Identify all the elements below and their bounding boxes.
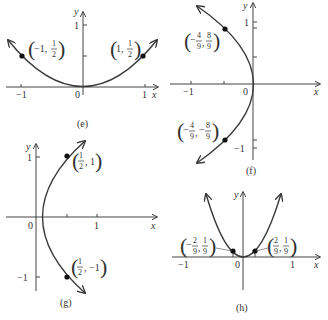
svg-text:0: 0 <box>243 86 248 97</box>
svg-text:−: − <box>190 34 196 45</box>
svg-text:9: 9 <box>207 42 211 51</box>
point <box>222 26 227 31</box>
svg-text:1: 1 <box>27 152 32 163</box>
svg-text:1: 1 <box>290 259 295 270</box>
svg-text:, 1: , 1 <box>85 156 95 167</box>
point-label-e2: ( 1, 1 2 ) <box>110 36 141 61</box>
svg-text:1: 1 <box>79 151 83 160</box>
svg-text:−1: −1 <box>17 272 28 283</box>
svg-text:1,: 1, <box>116 43 124 54</box>
point <box>19 53 24 58</box>
svg-text:2: 2 <box>52 50 56 59</box>
svg-text:−1,: −1, <box>34 43 47 54</box>
y-label: y <box>73 6 79 17</box>
caption-h: (h) <box>236 302 248 314</box>
point <box>64 274 69 279</box>
svg-text:−1: −1 <box>16 89 27 100</box>
point-label-g2: ( 1 2 , −1 ) <box>71 254 107 279</box>
svg-text:8: 8 <box>206 121 210 130</box>
svg-text:1: 1 <box>244 17 249 28</box>
svg-text:4: 4 <box>197 31 201 40</box>
panel-f: y x 0 −1 1 −1 ( − 4 9 , 8 9 ) ( − 4 9 , … <box>170 0 320 177</box>
svg-text:): ) <box>100 254 107 279</box>
svg-text:−: − <box>183 124 189 135</box>
svg-text:9: 9 <box>193 247 197 256</box>
svg-text:2: 2 <box>78 268 82 277</box>
figure: y x 0 −1 1 1 ( −1, 1 2 ) ( 1, 1 2 ) (e) <box>0 0 328 320</box>
svg-text:2: 2 <box>79 162 83 171</box>
svg-text:1: 1 <box>52 39 56 48</box>
caption-e: (e) <box>77 118 88 130</box>
point <box>222 137 227 142</box>
x-label: x <box>151 89 157 100</box>
svg-text:2: 2 <box>193 236 197 245</box>
svg-text:y: y <box>233 189 239 200</box>
origin-label: 0 <box>75 89 80 100</box>
caption-f: (f) <box>246 165 256 177</box>
point-label-g1: ( 1 2 , 1 ) <box>72 148 102 173</box>
point-label-f1: ( − 4 9 , 8 9 ) <box>184 28 220 53</box>
svg-text:,: , <box>198 242 201 253</box>
svg-text:): ) <box>134 36 141 61</box>
svg-text:): ) <box>95 148 102 173</box>
svg-text:, −1: , −1 <box>84 262 100 273</box>
svg-text:): ) <box>290 233 297 258</box>
svg-text:x: x <box>313 259 319 270</box>
point <box>64 153 69 158</box>
svg-text:−1: −1 <box>183 86 194 97</box>
svg-text:2: 2 <box>128 50 132 59</box>
point-label-e1: ( −1, 1 2 ) <box>28 36 65 61</box>
svg-text:1: 1 <box>128 39 132 48</box>
svg-text:x: x <box>313 86 319 97</box>
svg-text:9: 9 <box>206 132 210 141</box>
svg-text:,: , <box>202 37 205 48</box>
point-label-f2: ( − 4 9 , − 8 9 ) <box>177 118 219 143</box>
panel-g: y x 0 1 1 −1 ( 1 2 , 1 ) ( 1 2 , −1 ) (g… <box>6 141 157 309</box>
svg-text:−: − <box>186 239 192 250</box>
svg-text:): ) <box>213 28 220 53</box>
svg-text:9: 9 <box>274 247 278 256</box>
svg-text:1: 1 <box>203 236 207 245</box>
svg-text:4: 4 <box>190 121 194 130</box>
point-label-h1: ( − 2 9 , 1 9 ) <box>180 233 216 258</box>
svg-text:0: 0 <box>235 259 240 270</box>
svg-text:1: 1 <box>78 257 82 266</box>
svg-text:8: 8 <box>207 31 211 40</box>
svg-text:9: 9 <box>190 132 194 141</box>
caption-g: (g) <box>60 297 72 309</box>
svg-text:−1: −1 <box>234 143 245 154</box>
svg-text:,: , <box>195 127 198 138</box>
svg-text:): ) <box>212 118 219 143</box>
svg-text:1: 1 <box>74 20 79 31</box>
svg-text:1: 1 <box>142 89 147 100</box>
svg-text:9: 9 <box>197 42 201 51</box>
point-label-h2: ( 2 9 , 1 9 ) <box>267 233 297 258</box>
svg-text:y: y <box>242 0 248 11</box>
svg-text:): ) <box>209 233 216 258</box>
svg-text:−1: −1 <box>178 259 189 270</box>
svg-text:−: − <box>199 124 205 135</box>
svg-text:0: 0 <box>28 220 33 231</box>
panel-e: y x 0 −1 1 1 ( −1, 1 2 ) ( 1, 1 2 ) (e) <box>6 6 158 130</box>
svg-text:9: 9 <box>284 247 288 256</box>
svg-text:1: 1 <box>284 236 288 245</box>
svg-text:,: , <box>279 242 282 253</box>
panel-h: y x 0 −1 1 ( − 2 9 , 1 9 ) ( 2 9 , 1 9 ) <box>172 189 320 314</box>
svg-text:): ) <box>58 36 65 61</box>
svg-text:1: 1 <box>94 220 99 231</box>
svg-text:2: 2 <box>274 236 278 245</box>
svg-text:x: x <box>150 220 156 231</box>
svg-text:y: y <box>25 141 31 152</box>
svg-text:9: 9 <box>203 247 207 256</box>
